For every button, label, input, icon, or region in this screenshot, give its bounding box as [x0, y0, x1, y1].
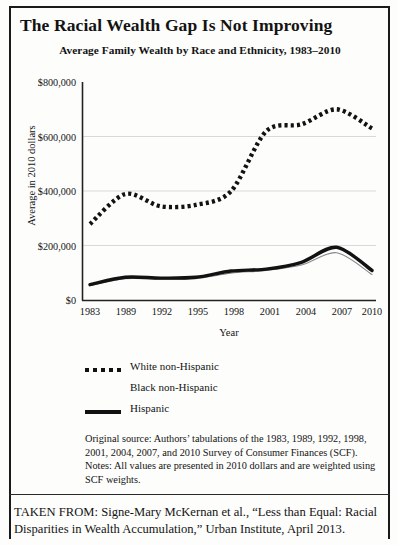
figure-page: The Racial Wealth Gap Is Not Improving A…: [0, 0, 398, 545]
legend-swatch-thin-icon: [85, 389, 121, 393]
legend-swatch-solid-icon: [85, 410, 121, 414]
legend-label: White non-Hispanic: [130, 360, 219, 372]
x-tick-label: 2004: [296, 306, 316, 317]
legend-item-white-non-hispanic: White non-Hispanic: [85, 360, 365, 381]
series-line-white-non-hispanic: [90, 109, 372, 224]
source-notes: Original source: Authors’ tabulations of…: [85, 432, 379, 486]
legend-item-hispanic: Hispanic: [85, 402, 365, 423]
x-axis-label: Year: [82, 327, 376, 338]
chart-legend: White non-Hispanic Black non-Hispanic Hi…: [85, 360, 365, 423]
x-tick-label: 1992: [152, 306, 172, 317]
x-tick-label: 1995: [188, 306, 208, 317]
x-tick-label: 2007: [332, 306, 352, 317]
legend-item-black-non-hispanic: Black non-Hispanic: [85, 381, 365, 402]
x-tick-label: 2010: [362, 306, 382, 317]
legend-label: Black non-Hispanic: [130, 381, 218, 393]
x-tick-label: 2001: [260, 306, 280, 317]
x-tick-label: 1983: [80, 306, 100, 317]
x-tick-label: 1989: [116, 306, 136, 317]
legend-swatch-dotted-icon: [85, 368, 121, 372]
taken-from-citation: TAKEN FROM: Signe-Mary McKernan et al., …: [14, 504, 384, 537]
series-line-black-non-hispanic: [90, 253, 372, 286]
series-line-hispanic: [90, 247, 372, 285]
legend-label: Hispanic: [130, 402, 169, 414]
x-tick-label: 1998: [224, 306, 244, 317]
